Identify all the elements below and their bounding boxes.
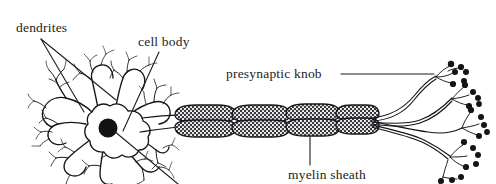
label-myelin-sheath: myelin sheath bbox=[288, 167, 366, 182]
label-presynaptic-knob: presynaptic knob bbox=[226, 66, 322, 81]
myelin-segment bbox=[336, 105, 379, 134]
myelin-segment bbox=[175, 105, 236, 137]
myelin-segment bbox=[232, 105, 290, 137]
myelin-segment-3 bbox=[286, 104, 340, 136]
label-cell-body: cell body bbox=[138, 34, 190, 49]
neuron-diagram: dendrites cell body presynaptic knob mye… bbox=[0, 0, 496, 184]
nucleus bbox=[99, 119, 118, 138]
myelin-sheath bbox=[175, 104, 379, 137]
label-dendrites: dendrites bbox=[16, 20, 67, 35]
